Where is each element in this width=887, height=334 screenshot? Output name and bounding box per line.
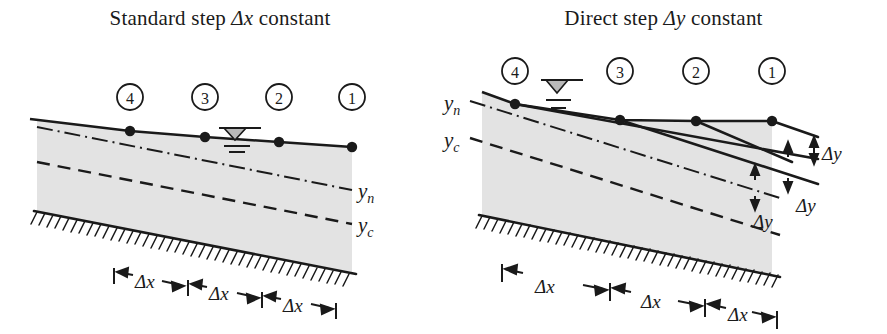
node-label: 1 — [348, 90, 356, 107]
node-marker-1: 1 — [339, 84, 365, 110]
label-normal-depth: yn — [442, 91, 460, 118]
node-marker-4: 4 — [502, 58, 528, 84]
node-dot — [615, 115, 625, 125]
node-label: 2 — [692, 64, 700, 81]
node-dot — [125, 126, 135, 136]
node-label: 4 — [511, 64, 519, 81]
node-dot — [510, 99, 520, 109]
dimension-label-delta-y: Δy — [752, 211, 773, 232]
water-surface-marker-icon — [541, 80, 583, 108]
figure-open-channel-step-methods: Standard step Δx constant — [0, 0, 887, 334]
diagram-standard-step: 4 3 2 1 yn yc — [0, 0, 440, 334]
dimension-label-delta-x: Δx — [134, 271, 155, 292]
node-dot — [691, 116, 701, 126]
node-label: 3 — [616, 64, 624, 81]
dimension-label-delta-x: Δx — [282, 295, 303, 316]
node-marker-2: 2 — [266, 84, 292, 110]
node-label: 3 — [201, 90, 209, 107]
label-critical-depth: yc — [442, 128, 460, 155]
panel-standard-step: Standard step Δx constant — [0, 0, 440, 334]
panel-direct-step: Direct step Δy constant — [440, 0, 887, 334]
node-dot — [274, 137, 284, 147]
label-normal-depth: yn — [356, 179, 374, 206]
node-marker-3: 3 — [192, 84, 218, 110]
node-marker-1: 1 — [759, 58, 785, 84]
node-marker-4: 4 — [117, 84, 143, 110]
node-label: 2 — [275, 90, 283, 107]
dimension-label-delta-x: Δx — [534, 276, 555, 297]
node-marker-3: 3 — [607, 58, 633, 84]
dimension-label-delta-y: Δy — [795, 195, 816, 216]
node-label: 1 — [768, 64, 776, 81]
dimension-label-delta-x: Δx — [640, 291, 661, 312]
dimension-label-delta-y: Δy — [821, 143, 842, 164]
dimension-label-delta-x: Δx — [727, 304, 748, 325]
node-label: 4 — [126, 90, 134, 107]
dimension-delta-y-2 — [784, 142, 792, 192]
node-dot — [200, 132, 210, 142]
dimension-label-delta-x: Δx — [208, 283, 229, 304]
node-marker-2: 2 — [683, 58, 709, 84]
label-critical-depth: yc — [356, 213, 374, 240]
node-dot — [347, 142, 357, 152]
node-dot — [767, 116, 777, 126]
diagram-direct-step: 4 3 2 1 yn yc — [440, 0, 887, 334]
